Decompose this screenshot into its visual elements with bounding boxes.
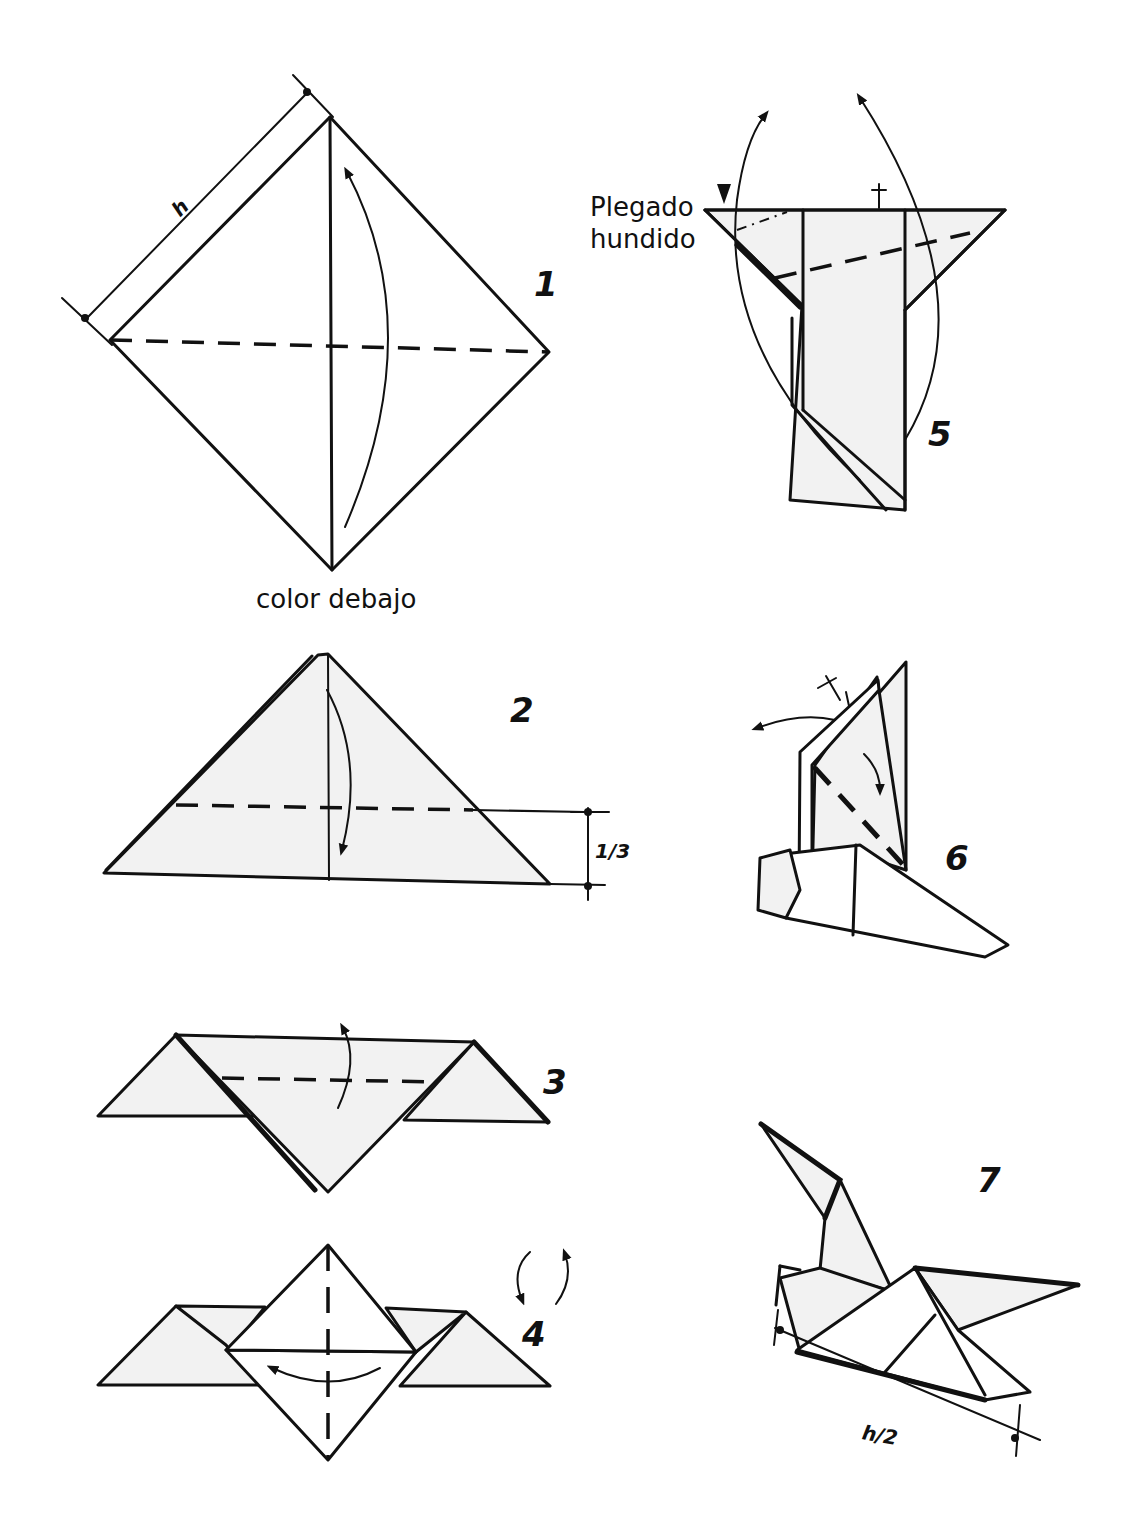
step-1-figure — [62, 75, 549, 570]
step-1-label: color debajo — [256, 584, 416, 614]
step-1-number: 1 — [534, 264, 558, 304]
step-3-number: 3 — [543, 1062, 567, 1102]
origami-diagram: h 1 color debajo 2 1/3 3 — [0, 0, 1139, 1524]
step-5-figure — [705, 98, 1005, 510]
step-4-figure — [98, 1245, 568, 1460]
step-5-label-line2: hundido — [590, 224, 696, 254]
step-1-dimension-h: h — [167, 194, 194, 221]
step-7-number: 7 — [977, 1160, 1001, 1200]
step-7-figure — [761, 1124, 1078, 1456]
step-7-dimension: h/2 — [860, 1420, 899, 1450]
step-6-figure — [757, 662, 1008, 957]
step-6-number: 6 — [945, 838, 969, 878]
step-4-number: 4 — [521, 1314, 546, 1354]
step-3-figure — [98, 1028, 548, 1192]
step-2-dimension: 1/3 — [595, 839, 630, 863]
step-5-label-line1: Plegado — [590, 192, 694, 222]
step-2-number: 2 — [510, 690, 534, 730]
sink-fold-triangle-icon — [717, 184, 731, 204]
step-5-number: 5 — [928, 414, 952, 454]
